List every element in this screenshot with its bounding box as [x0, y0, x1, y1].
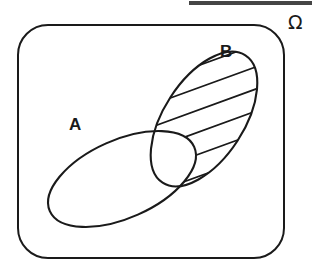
venn-canvas: A B Ω: [0, 0, 312, 269]
set-a-label: A: [69, 115, 82, 134]
venn-diagram-figure: A B Ω: [0, 0, 312, 269]
set-b-ellipse: [129, 33, 279, 204]
hatch-line: [147, 141, 297, 196]
set-b-label: B: [220, 42, 233, 61]
hatch-line: [111, 43, 261, 98]
hatch-fill-b-minus-a: [111, 43, 297, 196]
set-a-ellipse: [34, 111, 210, 247]
omega-label: Ω: [288, 11, 303, 33]
